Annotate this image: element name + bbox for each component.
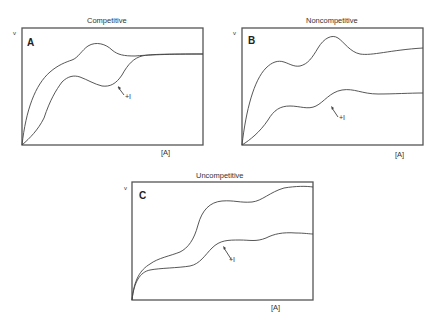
curve-uninhibited	[242, 36, 423, 145]
panel-letter: C	[139, 190, 146, 201]
curve-inhibited	[22, 54, 203, 145]
y-axis-label: v	[124, 185, 127, 191]
x-axis-label: [A]	[395, 150, 404, 159]
x-axis-label: [A]	[161, 148, 170, 157]
curve-inhibited	[132, 233, 313, 300]
panel-competitive: Competitive v A +I [A]	[13, 16, 203, 157]
panel-title: Uncompetitive	[196, 171, 244, 180]
x-axis-label: [A]	[271, 303, 280, 312]
plot-frame	[132, 182, 313, 300]
plot-frame	[22, 28, 203, 145]
y-axis-label: v	[13, 30, 16, 36]
panel-letter: A	[27, 37, 34, 48]
panel-noncompetitive: Noncompetitive v B +I [A]	[233, 16, 423, 159]
inhibitor-label: +I	[229, 256, 235, 263]
panel-title: Noncompetitive	[306, 16, 358, 25]
curve-uninhibited	[132, 186, 313, 300]
inhibitor-label: +I	[125, 93, 131, 100]
inhibitor-label: +I	[339, 114, 345, 121]
panel-title: Competitive	[87, 16, 127, 25]
plot-frame	[242, 28, 423, 145]
curve-uninhibited	[22, 43, 203, 145]
panel-uncompetitive: Uncompetitive v C +I [A]	[124, 171, 313, 312]
arrowhead-icon	[223, 246, 226, 250]
inhibitor-arrow	[332, 108, 338, 117]
arrowhead-icon	[331, 106, 334, 110]
figure: Competitive v A +I [A] Noncompetitive v …	[0, 0, 439, 324]
y-axis-label: v	[233, 30, 236, 36]
curve-inhibited	[242, 90, 423, 145]
panel-letter: B	[248, 35, 255, 46]
